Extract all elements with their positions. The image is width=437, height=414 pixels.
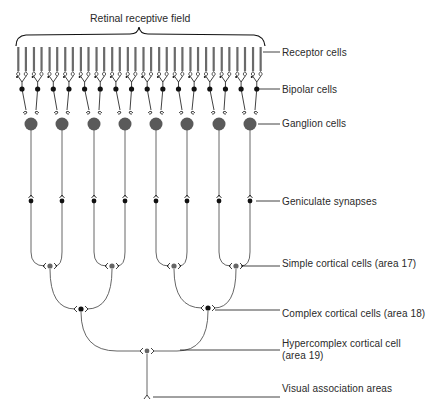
label-ganglion-cells: Ganglion cells bbox=[282, 118, 346, 129]
receptor-cell bbox=[72, 47, 74, 71]
receptor-cell bbox=[221, 47, 223, 71]
ganglion-cell bbox=[244, 118, 257, 131]
receptor-cell bbox=[197, 47, 199, 71]
bipolar-cells-row bbox=[18, 77, 260, 92]
label-hypercomplex-area: (area 19) bbox=[282, 350, 323, 361]
receptor-cell bbox=[95, 47, 97, 71]
receptor-cell bbox=[174, 47, 176, 71]
ganglion-cell bbox=[56, 118, 69, 131]
geniculate-synapse bbox=[60, 199, 65, 204]
complex-cortical-cell bbox=[78, 306, 83, 311]
receptor-cell bbox=[166, 47, 168, 71]
receptor-cells-row bbox=[16, 47, 262, 78]
geniculate-synapse bbox=[185, 199, 190, 204]
receptor-cell bbox=[25, 47, 27, 71]
label-simple-cortical-cells: Simple cortical cells (area 17) bbox=[282, 258, 416, 269]
simple-cortical-cell bbox=[171, 263, 176, 268]
receptor-cell bbox=[17, 47, 19, 71]
receptor-cell bbox=[40, 47, 42, 71]
association-fork bbox=[144, 395, 150, 399]
receptor-cell bbox=[103, 47, 105, 71]
receptive-field-brace bbox=[16, 27, 265, 46]
receptor-cell bbox=[127, 47, 129, 71]
receptor-cell bbox=[236, 47, 238, 71]
label-hypercomplex-cortical-cell: Hypercomplex cortical cell bbox=[282, 338, 401, 349]
geniculate-synapses-row bbox=[29, 130, 253, 240]
receptor-cell bbox=[252, 47, 254, 71]
label-complex-cortical-cells: Complex cortical cells (area 18) bbox=[282, 308, 425, 319]
ganglion-cell bbox=[150, 118, 163, 131]
label-geniculate-synapses: Geniculate synapses bbox=[282, 196, 377, 207]
label-receptor-cells: Receptor cells bbox=[282, 47, 347, 58]
simple-cortical-cell bbox=[109, 263, 114, 268]
simple-cortical-cell bbox=[233, 263, 238, 268]
hypercomplex-cortical-cell bbox=[145, 349, 150, 354]
receptor-cell bbox=[228, 47, 230, 71]
cortical-cells-tree bbox=[31, 240, 250, 399]
receptor-cell bbox=[111, 47, 113, 71]
ganglion-cell bbox=[88, 118, 101, 131]
geniculate-synapse bbox=[154, 199, 159, 204]
geniculate-synapse bbox=[92, 199, 97, 204]
receptor-cell bbox=[158, 47, 160, 71]
receptor-cell bbox=[119, 47, 121, 71]
receptor-cell bbox=[189, 47, 191, 71]
receptor-cell bbox=[64, 47, 66, 71]
label-bipolar-cells: Bipolar cells bbox=[282, 84, 337, 95]
geniculate-synapse bbox=[29, 199, 34, 204]
ganglion-cell bbox=[119, 118, 132, 131]
ganglion-cell bbox=[181, 118, 194, 131]
ganglion-cells-row bbox=[22, 89, 258, 131]
geniculate-synapse bbox=[248, 199, 253, 204]
receptor-cell bbox=[87, 47, 89, 71]
geniculate-synapse bbox=[217, 199, 222, 204]
complex-cortical-cell bbox=[205, 305, 210, 310]
receptor-cell bbox=[49, 47, 51, 71]
ganglion-cell bbox=[213, 118, 226, 131]
receptor-cell bbox=[213, 47, 215, 71]
label-visual-association-areas: Visual association areas bbox=[282, 383, 392, 394]
simple-cortical-cell bbox=[47, 263, 52, 268]
diagram-title: Retinal receptive field bbox=[90, 12, 190, 24]
ganglion-cell bbox=[25, 118, 38, 131]
receptor-cell bbox=[142, 47, 144, 71]
receptor-cell bbox=[260, 47, 262, 71]
visual-pathway-diagram bbox=[0, 0, 437, 414]
receptor-cell bbox=[205, 47, 207, 71]
label-leader-lines bbox=[153, 52, 280, 397]
receptor-cell bbox=[33, 47, 35, 71]
receptor-cell bbox=[150, 47, 152, 71]
brace-curve bbox=[16, 27, 265, 46]
receptor-cell bbox=[134, 47, 136, 71]
geniculate-synapse bbox=[123, 199, 128, 204]
receptor-cell bbox=[56, 47, 58, 71]
receptor-cell bbox=[181, 47, 183, 71]
receptor-cell bbox=[80, 47, 82, 71]
receptor-cell bbox=[244, 47, 246, 71]
